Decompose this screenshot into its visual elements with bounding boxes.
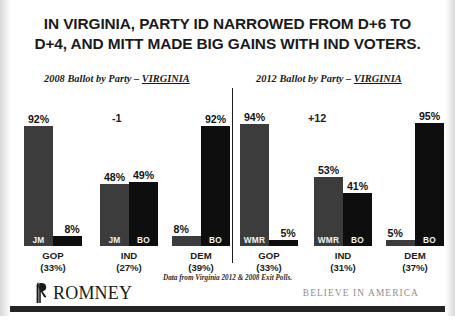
bar-value-label: 92% xyxy=(205,113,226,125)
chart-caption-left: 2008 Ballot by Party – VIRGINIA xyxy=(44,73,190,84)
bar-series-tag: WMR xyxy=(314,236,343,245)
bar-bo-ind-right: 41%BO xyxy=(343,193,372,246)
bar-value-label: 92% xyxy=(28,113,49,125)
bar-group-dem-left: 8%92%BO xyxy=(172,100,236,246)
category-label-gop-right: GOP(33%) xyxy=(240,250,298,273)
romney-logo: ROMNEY xyxy=(36,281,132,305)
bar-value-label: 41% xyxy=(347,180,368,192)
bar-value-label: 48% xyxy=(104,171,125,183)
bar-value-label: 8% xyxy=(64,223,79,235)
category-name: IND xyxy=(121,250,138,261)
category-name: DEM xyxy=(190,250,211,261)
category-share: (33%) xyxy=(24,262,82,274)
romney-flame-icon xyxy=(36,282,53,304)
annotation-delta-left: -1 xyxy=(112,112,122,124)
bar-series-tag: BO xyxy=(201,236,230,245)
category-name: DEM xyxy=(404,250,425,261)
category-share: (27%) xyxy=(100,262,158,274)
bar-group-gop-right: 94%WMR5% xyxy=(240,100,306,246)
bar-bo-gop-left: 8% xyxy=(53,236,82,246)
bar-bo-ind-left: 49%BO xyxy=(129,182,158,246)
page-title: IN VIRGINIA, PARTY ID NARROWED FROM D+6 … xyxy=(18,14,437,54)
bar-jm-gop-left: 92%JM xyxy=(24,126,53,246)
bar-series-tag: BO xyxy=(343,236,372,245)
campaign-tagline: BELIEVE IN AMERICA xyxy=(303,288,419,298)
category-name: GOP xyxy=(42,250,63,261)
bar-group-bars: 8%92%BO xyxy=(172,100,236,246)
title-line-2: D+4, AND MITT MADE BIG GAINS WITH IND VO… xyxy=(18,34,437,54)
bar-series-tag: JM xyxy=(24,236,53,245)
category-label-ind-right: IND(31%) xyxy=(314,250,372,273)
title-line-1: IN VIRGINIA, PARTY ID NARROWED FROM D+6 … xyxy=(18,14,437,34)
category-label-dem-right: DEM(37%) xyxy=(386,250,444,273)
bar-value-label: 94% xyxy=(244,111,265,123)
category-label-dem-left: DEM(39%) xyxy=(172,250,230,273)
caption-prefix-right: 2012 Ballot by Party – xyxy=(256,73,354,84)
caption-state-right: VIRGINIA xyxy=(354,73,402,84)
bar-group-ind-left: 48%JM49%BO xyxy=(100,100,164,246)
bar-jm-dem-left: 8% xyxy=(172,236,201,246)
bar-series-tag: WMR xyxy=(240,236,269,245)
bar-group-dem-right: 5%95%BO xyxy=(386,100,450,246)
logo-wordmark: ROMNEY xyxy=(53,283,132,303)
category-share: (33%) xyxy=(240,262,298,274)
bar-series-tag: BO xyxy=(129,236,158,245)
category-share: (31%) xyxy=(314,262,372,274)
bar-dem-gop-right: 5% xyxy=(269,240,298,247)
category-share: (39%) xyxy=(172,262,230,274)
bar-value-label: 95% xyxy=(419,110,440,122)
bar-group-bars: 92%JM8% xyxy=(24,100,92,246)
bar-series-tag: BO xyxy=(415,236,444,245)
category-name: GOP xyxy=(258,250,279,261)
bar-jm-ind-left: 48%JM xyxy=(100,184,129,246)
bar-value-label: 49% xyxy=(133,169,154,181)
bar-bo-dem-right: 95%BO xyxy=(415,123,444,247)
bar-value-label: 5% xyxy=(280,227,295,239)
bar-group-bars: 94%WMR5% xyxy=(240,100,306,246)
caption-state-left: VIRGINIA xyxy=(142,73,190,84)
bar-group-bars: 48%JM49%BO xyxy=(100,100,164,246)
annotation-delta-right: +12 xyxy=(308,112,326,124)
chart-panel-right: 94%WMR5%53%WMR41%BO5%95%BO xyxy=(238,100,444,246)
bar-value-label: 53% xyxy=(318,164,339,176)
category-share: (37%) xyxy=(386,262,444,274)
bar-series-tag: JM xyxy=(100,236,129,245)
chart-caption-right: 2012 Ballot by Party – VIRGINIA xyxy=(256,73,402,84)
caption-prefix-left: 2008 Ballot by Party – xyxy=(44,73,142,84)
category-name: IND xyxy=(335,250,352,261)
bar-group-gop-left: 92%JM8% xyxy=(24,100,92,246)
category-label-gop-left: GOP(33%) xyxy=(24,250,82,273)
footer-rule xyxy=(10,306,445,312)
bar-group-bars: 5%95%BO xyxy=(386,100,450,246)
bar-bo-dem-left: 92%BO xyxy=(201,126,230,246)
bar-rep-dem-right: 5% xyxy=(386,240,415,247)
bar-wmr-gop-right: 94%WMR xyxy=(240,124,269,246)
category-label-ind-left: IND(27%) xyxy=(100,250,158,273)
bar-value-label: 8% xyxy=(174,223,189,235)
slide-canvas: IN VIRGINIA, PARTY ID NARROWED FROM D+6 … xyxy=(0,0,455,328)
bar-wmr-ind-right: 53%WMR xyxy=(314,177,343,246)
bar-value-label: 5% xyxy=(388,227,403,239)
